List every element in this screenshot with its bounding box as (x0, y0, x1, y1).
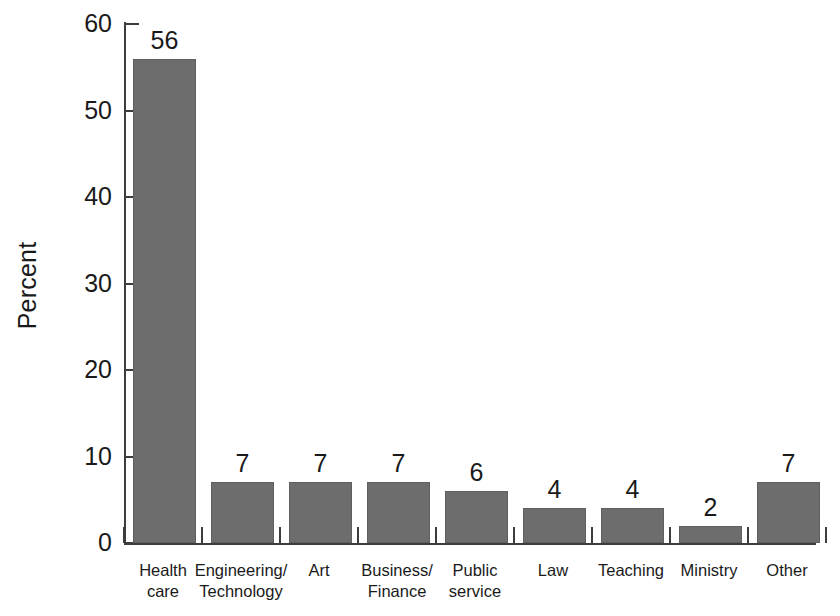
bar-value-label: 7 (367, 451, 430, 476)
bar[interactable] (133, 59, 196, 543)
y-axis-tick (126, 23, 139, 25)
category-label-line2: service (428, 581, 522, 602)
bar-value-label: 7 (757, 451, 820, 476)
bar[interactable] (679, 526, 742, 543)
bar-value-label: 56 (133, 28, 196, 53)
category-label-line1: Teaching (598, 561, 664, 579)
y-axis-title-label: Percent (14, 241, 43, 329)
x-axis-line (124, 543, 816, 545)
x-axis-tick (357, 527, 359, 543)
x-axis-tick (201, 527, 203, 543)
x-axis-category-label: Other (740, 560, 834, 581)
category-label-line1: Public (453, 561, 498, 579)
x-axis-tick (591, 527, 593, 543)
y-axis-title: Percent (0, 0, 56, 570)
category-label-line1: Other (766, 561, 807, 579)
bar[interactable] (367, 482, 430, 543)
y-axis-tick-label: 30 (52, 271, 112, 296)
x-axis-tick (123, 527, 125, 543)
category-label-line2: Technology (194, 581, 288, 602)
bar-value-label: 2 (679, 495, 742, 520)
bar[interactable] (289, 482, 352, 543)
y-axis-tick-label: 0 (52, 530, 112, 555)
category-label-line1: Art (308, 561, 329, 579)
y-axis-tick-label: 40 (52, 184, 112, 209)
x-axis-tick (435, 527, 437, 543)
bar[interactable] (445, 491, 508, 543)
bar[interactable] (523, 508, 586, 543)
bar[interactable] (757, 482, 820, 543)
bar-value-label: 4 (601, 477, 664, 502)
bar-value-label: 7 (211, 451, 274, 476)
x-axis-tick (279, 527, 281, 543)
bar[interactable] (211, 482, 274, 543)
y-axis-tick-label: 60 (52, 11, 112, 36)
y-axis-tick-label: 10 (52, 444, 112, 469)
y-axis-tick-label: 20 (52, 357, 112, 382)
category-label-line1: Ministry (681, 561, 738, 579)
bar-chart: Percent 6050403020100 56Healthcare7Engin… (0, 0, 840, 616)
y-axis-tick-label: 50 (52, 98, 112, 123)
bar-value-label: 7 (289, 451, 352, 476)
category-label-line1: Law (538, 561, 568, 579)
x-axis-tick (747, 527, 749, 543)
bar-value-label: 4 (523, 477, 586, 502)
x-axis-tick (825, 527, 827, 543)
bar-value-label: 6 (445, 460, 508, 485)
x-axis-tick (669, 527, 671, 543)
bar[interactable] (601, 508, 664, 543)
category-label-line1: Business/ (361, 561, 433, 579)
x-axis-tick (513, 527, 515, 543)
category-label-line1: Health (139, 561, 187, 579)
